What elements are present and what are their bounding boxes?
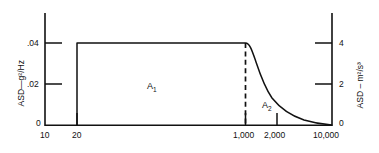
- right-ytick-label-0: 0: [339, 119, 344, 128]
- left-y-axis-title-text: ASD—g²/Hz: [16, 60, 26, 106]
- asd-spectrum-chart: .04 .02 0 4 2 0 10 20 1,000 2,000 10,000…: [0, 0, 379, 153]
- xtick-label-10000: 10,000: [313, 131, 339, 140]
- xtick-label-20: 20: [72, 131, 81, 140]
- xtick-label-10: 10: [40, 131, 49, 140]
- right-ytick-label-2: 2: [339, 80, 344, 89]
- annotation-area-2: A2: [262, 101, 272, 110]
- annotation-area-2-subscript: 2: [268, 105, 272, 112]
- left-y-axis-title: ASD—g²/Hz: [17, 50, 26, 116]
- xtick-label-1000: 1,000: [233, 131, 254, 140]
- left-ytick-label-004: .04: [27, 39, 39, 48]
- right-ytick-label-4: 4: [339, 39, 344, 48]
- xtick-label-2000: 2,000: [264, 131, 285, 140]
- annotation-area-1: A1: [147, 82, 157, 91]
- left-ytick-label-0: 0: [36, 119, 41, 128]
- right-y-axis-title-text: ASD – m²/s³: [355, 62, 365, 108]
- annotation-area-1-subscript: 1: [153, 86, 157, 93]
- left-ytick-label-002: .02: [27, 80, 39, 89]
- asd-spectrum-trace: [77, 43, 332, 125]
- right-y-axis-title: ASD – m²/s³: [356, 50, 365, 120]
